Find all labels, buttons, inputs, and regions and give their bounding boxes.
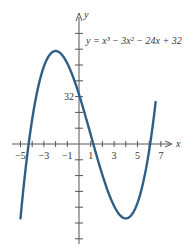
- cubic-function-plot: −5−3−11357 32 x y y = x³ − 3x² − 24x + 3…: [0, 0, 194, 250]
- x-tick-label: 7: [158, 150, 163, 161]
- equation-label: y = x³ − 3x² − 24x + 32: [85, 35, 182, 46]
- x-tick-label: −3: [39, 150, 50, 161]
- x-tick-label: 5: [135, 150, 140, 161]
- x-tick-label: −5: [15, 150, 26, 161]
- x-tick-label: −1: [62, 150, 73, 161]
- x-tick-label: 3: [112, 150, 117, 161]
- x-tick-labels: −5−3−11357: [15, 150, 163, 161]
- axes: [12, 13, 172, 244]
- x-tick-label: 1: [88, 150, 93, 161]
- y-axis-label: y: [83, 9, 89, 20]
- x-axis-label: x: [175, 138, 181, 149]
- y-tick-label-32: 32: [64, 91, 74, 102]
- function-curve: [21, 51, 156, 218]
